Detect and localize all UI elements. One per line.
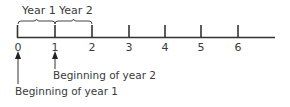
tick-label-0: 0 xyxy=(12,42,24,54)
tick-label-3: 3 xyxy=(123,42,135,54)
tick-label-5: 5 xyxy=(195,42,207,54)
period-label-year-2: Year 2 xyxy=(59,5,93,17)
ticks xyxy=(18,25,239,38)
tick-label-6: 6 xyxy=(232,42,244,54)
arrow-beginning-year-1 xyxy=(15,51,21,84)
period-label-year-1: Year 1 xyxy=(22,5,56,17)
brace-year-1 xyxy=(18,19,55,24)
tick-label-2: 2 xyxy=(86,42,98,54)
tick-label-1: 1 xyxy=(49,42,61,54)
annotation-beginning-year-2: Beginning of year 2 xyxy=(53,69,156,81)
annotation-beginning-year-1: Beginning of year 1 xyxy=(15,85,118,97)
tick-label-4: 4 xyxy=(159,42,171,54)
brace-year-2 xyxy=(55,19,92,24)
